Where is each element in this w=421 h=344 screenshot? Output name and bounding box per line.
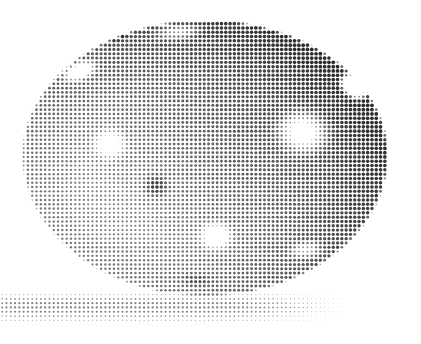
halftone-egg-artwork [0,0,421,344]
image-canvas [0,0,421,344]
